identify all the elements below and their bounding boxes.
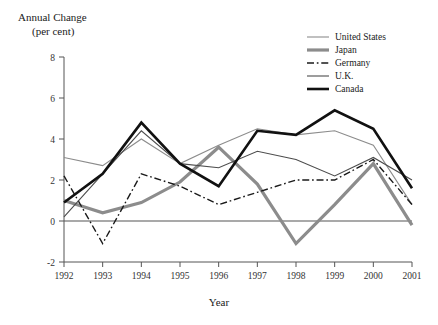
chart-page: Annual Change(per cent) -202468199219931… [0, 0, 438, 325]
x-axis-tick-label: 1999 [325, 271, 344, 281]
series-line-japan [64, 147, 412, 243]
x-axis-tick-label: 1998 [287, 271, 306, 281]
series-line-germany [64, 160, 412, 244]
y-axis-tick-label: 6 [50, 94, 55, 104]
series-layer [64, 110, 412, 243]
legend-item-label: U.K. [335, 71, 353, 81]
legend-item-label: United States [335, 32, 386, 42]
legend-item: U.K. [306, 69, 386, 82]
x-axis-tick-label: 1994 [132, 271, 151, 281]
legend-item: Japan [306, 43, 386, 56]
legend-item-label: Japan [335, 45, 357, 55]
x-axis-tick-label: 1996 [209, 271, 228, 281]
y-axis-tick-label: -2 [47, 258, 55, 268]
x-axis-label: Year [0, 296, 438, 308]
x-axis-tick-label: 1993 [93, 271, 112, 281]
legend-swatch-icon [306, 57, 330, 69]
legend-item: United States [306, 30, 386, 43]
legend-item-label: Germany [335, 58, 370, 68]
x-axis-tick-label: 2000 [364, 271, 383, 281]
x-axis-tick-label: 1997 [248, 271, 267, 281]
y-axis-tick-label: 4 [50, 135, 55, 145]
legend-item: Germany [306, 56, 386, 69]
x-axis-tick-label: 2001 [403, 271, 422, 281]
x-axis-tick-label: 1992 [55, 271, 74, 281]
y-axis-tick-label: 2 [50, 176, 55, 186]
legend-swatch-icon [306, 31, 330, 43]
y-axis-tick-label: 0 [50, 217, 55, 227]
chart-legend: United StatesJapanGermanyU.K.Canada [306, 30, 386, 95]
series-line-canada [64, 110, 412, 202]
legend-swatch-icon [306, 70, 330, 82]
legend-swatch-icon [306, 83, 330, 95]
y-axis-tick-label: 8 [50, 53, 55, 63]
series-line-u-k [64, 131, 412, 217]
x-axis-tick-label: 1995 [171, 271, 190, 281]
legend-item-label: Canada [335, 84, 364, 94]
legend-item: Canada [306, 82, 386, 95]
legend-swatch-icon [306, 44, 330, 56]
